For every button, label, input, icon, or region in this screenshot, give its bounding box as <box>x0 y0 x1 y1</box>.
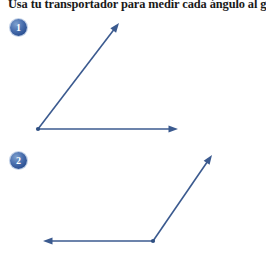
angle-2-diagonal-ray <box>153 161 208 241</box>
problem-number-label-2: 2 <box>16 156 21 166</box>
angle-worksheet: Usa tu transportador para medir cada áng… <box>0 0 266 265</box>
angle-2-horizontal-ray-arrowhead-icon <box>43 237 53 244</box>
worksheet-instruction-title: Usa tu transportador para medir cada áng… <box>8 0 266 12</box>
problem-number-badge-1: 1 <box>10 19 27 36</box>
problem-number-label-1: 1 <box>16 23 21 33</box>
angle-1-vertex-point <box>36 127 40 131</box>
angle-1-diagonal-ray-arrowhead-icon <box>110 23 119 33</box>
angle-figure-2 <box>43 155 212 245</box>
angle-2-diagonal-ray-arrowhead-icon <box>204 155 212 165</box>
angle-figures <box>0 0 266 265</box>
angle-2-vertex-point <box>151 239 155 243</box>
angle-1-diagonal-ray <box>38 29 115 129</box>
problem-number-badge-2: 2 <box>10 152 27 169</box>
angle-1-horizontal-ray-arrowhead-icon <box>169 125 179 132</box>
angle-figure-1 <box>36 23 178 133</box>
